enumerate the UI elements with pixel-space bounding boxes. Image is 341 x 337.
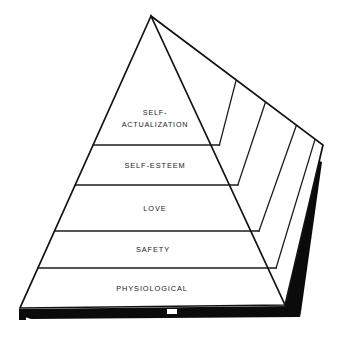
maslow-pyramid-diagram: SELF- ACTUALIZATION SELF-ESTEEM LOVE SAF… [0, 0, 341, 337]
tier-label-safety: SAFETY [136, 245, 170, 254]
tier-label-love: LOVE [143, 204, 166, 213]
tier-label-physiological: PHYSIOLOGICAL [116, 284, 188, 293]
tier-label-self-actualization-line1: SELF- [143, 108, 167, 117]
pyramid-figure: SELF- ACTUALIZATION SELF-ESTEEM LOVE SAF… [0, 0, 341, 337]
tier-label-self-esteem: SELF-ESTEEM [124, 161, 185, 170]
bottom-shadow-left-foot [19, 309, 26, 320]
bottom-shadow-notch [167, 309, 177, 314]
tier-label-self-actualization-line2: ACTUALIZATION [122, 120, 189, 129]
